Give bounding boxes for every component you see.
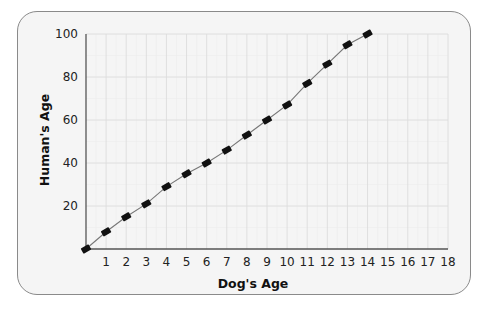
data-point-marker xyxy=(201,158,212,168)
x-tick-label: 14 xyxy=(360,255,375,269)
x-tick-label: 16 xyxy=(400,255,415,269)
x-tick-label: 3 xyxy=(143,255,151,269)
x-tick-label: 10 xyxy=(279,255,294,269)
x-tick-label: 7 xyxy=(223,255,231,269)
x-tick-label: 1 xyxy=(102,255,110,269)
x-tick-label: 5 xyxy=(183,255,191,269)
x-tick-labels: 123456789101112131415161718 xyxy=(102,255,455,269)
x-tick-label: 15 xyxy=(380,255,395,269)
data-point-marker xyxy=(181,169,192,179)
x-tick-label: 6 xyxy=(203,255,211,269)
x-tick-label: 13 xyxy=(340,255,355,269)
x-tick-label: 8 xyxy=(243,255,251,269)
y-tick-label: 60 xyxy=(63,113,78,127)
y-tick-labels: 20406080100 xyxy=(55,27,78,213)
data-point-marker xyxy=(362,29,373,39)
y-tick-label: 80 xyxy=(63,70,78,84)
x-tick-label: 9 xyxy=(263,255,271,269)
x-tick-label: 12 xyxy=(320,255,335,269)
y-tick-label: 40 xyxy=(63,156,78,170)
x-tick-label: 18 xyxy=(440,255,455,269)
x-tick-label: 11 xyxy=(300,255,315,269)
grid-lines xyxy=(86,34,448,249)
x-tick-label: 17 xyxy=(420,255,435,269)
x-axis-title: Dog's Age xyxy=(218,276,289,291)
x-tick-label: 4 xyxy=(163,255,171,269)
y-axis-title: Human's Age xyxy=(37,94,52,186)
y-tick-label: 20 xyxy=(63,199,78,213)
line-chart: 123456789101112131415161718 20406080100 … xyxy=(0,0,487,312)
x-tick-label: 2 xyxy=(122,255,130,269)
y-tick-label: 100 xyxy=(55,27,78,41)
